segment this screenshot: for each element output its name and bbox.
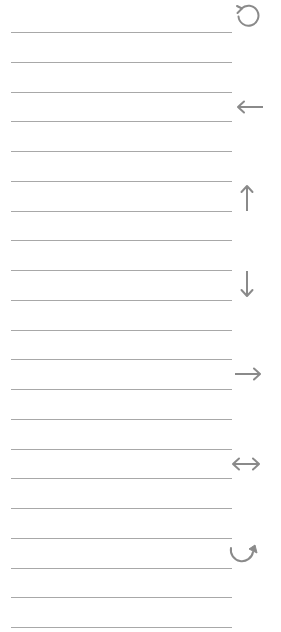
arrow-left-right-icon bbox=[231, 457, 261, 471]
ruled-line bbox=[11, 32, 232, 33]
ruled-line bbox=[11, 330, 232, 331]
ruled-line bbox=[11, 151, 232, 152]
ruled-line bbox=[11, 121, 232, 122]
arrow-left-icon bbox=[236, 100, 264, 114]
ruled-line bbox=[11, 92, 232, 93]
ruled-line bbox=[11, 419, 232, 420]
ruled-line bbox=[11, 270, 232, 271]
arrow-down-icon bbox=[240, 270, 254, 298]
ruled-line bbox=[11, 240, 232, 241]
rotate-counterclockwise-icon bbox=[234, 2, 261, 29]
ruled-line bbox=[11, 300, 232, 301]
ruled-line bbox=[11, 359, 232, 360]
ruled-line bbox=[11, 538, 232, 539]
ruled-line bbox=[11, 478, 232, 479]
ruled-line bbox=[11, 568, 232, 569]
arrow-right-icon bbox=[234, 367, 262, 381]
ruled-line bbox=[11, 449, 232, 450]
ruled-line bbox=[11, 508, 232, 509]
ruled-line bbox=[11, 597, 232, 598]
ruled-line bbox=[11, 62, 232, 63]
arrow-up-icon bbox=[240, 184, 254, 212]
curved-arrow-clockwise-icon bbox=[229, 542, 261, 566]
ruled-line bbox=[11, 211, 232, 212]
ruled-line bbox=[11, 181, 232, 182]
ruled-line bbox=[11, 627, 232, 628]
ruled-line bbox=[11, 389, 232, 390]
